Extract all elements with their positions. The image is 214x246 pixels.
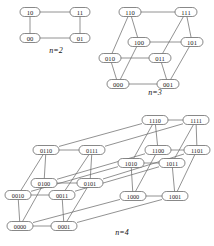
node-label: 01 — [77, 35, 84, 42]
edge-1110-1100 — [155, 125, 157, 146]
edge-110-010 — [112, 17, 128, 54]
node-label: 0000 — [14, 223, 26, 230]
node-label: 1110 — [149, 117, 161, 124]
edge-111-101 — [187, 17, 191, 38]
edge-1111-1101 — [196, 125, 197, 146]
node-label: 0100 — [38, 180, 50, 187]
node-label: 0010 — [12, 192, 24, 199]
node-label: 10 — [27, 9, 34, 16]
node-label: 101 — [187, 39, 197, 46]
graph-canvas: 10110001n=2110111100101010011000001n=311… — [0, 0, 214, 246]
node-011[interactable]: 011 — [149, 54, 171, 63]
node-0111[interactable]: 0111 — [79, 146, 105, 155]
edge-011-001 — [161, 63, 166, 80]
nodes-q2: 10110001 — [20, 8, 90, 43]
caption-q4: n=4 — [115, 228, 128, 237]
node-label: 110 — [125, 9, 135, 16]
edge-1111-0111 — [105, 124, 183, 147]
edge-1011-1001 — [172, 168, 174, 192]
node-01[interactable]: 01 — [70, 34, 90, 43]
node-label: 010 — [105, 55, 116, 62]
edge-0111-0101 — [90, 155, 91, 179]
node-0000[interactable]: 0000 — [7, 222, 33, 231]
node-label: 1010 — [125, 160, 137, 167]
node-label: 1111 — [190, 117, 202, 124]
caption-q2: n=2 — [49, 46, 62, 55]
panel-q2: 10110001n=2 — [20, 8, 90, 55]
edge-1000-0000 — [33, 199, 120, 222]
hypercube-graphs-figure: 10110001n=2110111100101010011000001n=311… — [0, 0, 214, 246]
edge-010-000 — [111, 63, 116, 80]
edges-q4 — [18, 120, 197, 226]
edge-101-001 — [171, 47, 190, 80]
node-label: 0011 — [56, 192, 68, 199]
node-1011[interactable]: 1011 — [159, 159, 185, 168]
node-1010[interactable]: 1010 — [118, 159, 144, 168]
node-0001[interactable]: 0001 — [51, 222, 77, 231]
panel-q4: 1110111111001101101010111000100101100111… — [5, 116, 210, 237]
edge-100-000 — [120, 47, 137, 80]
node-1000[interactable]: 1000 — [120, 192, 146, 201]
caption-q3: n=3 — [148, 88, 161, 97]
edge-0110-0100 — [44, 155, 45, 179]
node-label: 111 — [181, 9, 190, 16]
node-label: 011 — [155, 55, 165, 62]
node-0010[interactable]: 0010 — [5, 191, 31, 200]
node-101[interactable]: 101 — [181, 38, 203, 47]
panel-q3: 110111100101010011000001n=3 — [99, 8, 203, 97]
node-1101[interactable]: 1101 — [184, 146, 210, 155]
node-1111[interactable]: 1111 — [183, 116, 209, 125]
node-0110[interactable]: 0110 — [33, 146, 59, 155]
node-0011[interactable]: 0011 — [49, 191, 75, 200]
edge-0011-0001 — [62, 200, 63, 222]
node-0101[interactable]: 0101 — [77, 179, 103, 188]
edge-1010-1000 — [131, 168, 132, 192]
node-000[interactable]: 000 — [107, 80, 129, 89]
edge-111-011 — [163, 17, 184, 54]
node-1001[interactable]: 1001 — [162, 192, 188, 201]
edges-q3 — [111, 12, 191, 84]
node-label: 0111 — [86, 147, 98, 154]
node-label: 0101 — [84, 180, 96, 187]
node-00[interactable]: 00 — [20, 34, 40, 43]
node-0100[interactable]: 0100 — [31, 179, 57, 188]
node-111[interactable]: 111 — [175, 8, 197, 17]
node-label: 100 — [134, 39, 145, 46]
edge-0010-0000 — [18, 200, 19, 222]
node-10[interactable]: 10 — [20, 8, 40, 17]
edge-1001-0001 — [77, 200, 162, 223]
node-label: 000 — [113, 81, 124, 88]
node-label: 1100 — [152, 147, 164, 154]
node-label: 1101 — [191, 147, 203, 154]
node-110[interactable]: 110 — [119, 8, 141, 17]
node-label: 001 — [163, 81, 173, 88]
node-label: 1000 — [127, 193, 139, 200]
node-1110[interactable]: 1110 — [142, 116, 168, 125]
node-label: 1011 — [166, 160, 178, 167]
node-label: 1001 — [169, 193, 181, 200]
node-label: 00 — [27, 35, 34, 42]
node-1100[interactable]: 1100 — [145, 146, 171, 155]
node-label: 0110 — [40, 147, 52, 154]
node-100[interactable]: 100 — [128, 38, 150, 47]
node-010[interactable]: 010 — [99, 54, 121, 63]
node-label: 11 — [77, 9, 83, 16]
edge-110-100 — [131, 17, 137, 38]
edge-1110-0110 — [59, 124, 142, 147]
node-11[interactable]: 11 — [70, 8, 90, 17]
node-label: 0001 — [58, 223, 70, 230]
